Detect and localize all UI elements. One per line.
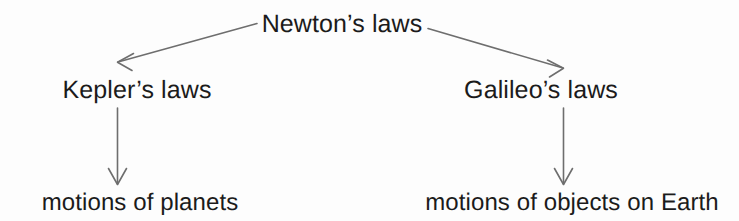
node-keplers-laws: Kepler’s laws: [62, 78, 211, 103]
node-galileos-laws: Galileo’s laws: [464, 78, 618, 103]
connector-galileo-to-earth: [555, 108, 573, 185]
connector-kepler-to-planets: [109, 108, 127, 185]
connector-root-to-kepler-line: [118, 24, 257, 63]
node-newtons-laws: Newton’s laws: [262, 12, 423, 37]
arrowhead-root-to-galileo-icon: [548, 60, 564, 77]
connector-root-to-galileo: [428, 29, 564, 78]
diagram-canvas: Newton’s laws Kepler’s laws Galileo’s la…: [0, 0, 739, 221]
connector-root-to-kepler: [118, 24, 258, 71]
node-motions-of-objects-on-earth: motions of objects on Earth: [425, 191, 719, 215]
connector-root-to-galileo-line: [428, 29, 563, 69]
node-motions-of-planets: motions of planets: [42, 191, 239, 215]
